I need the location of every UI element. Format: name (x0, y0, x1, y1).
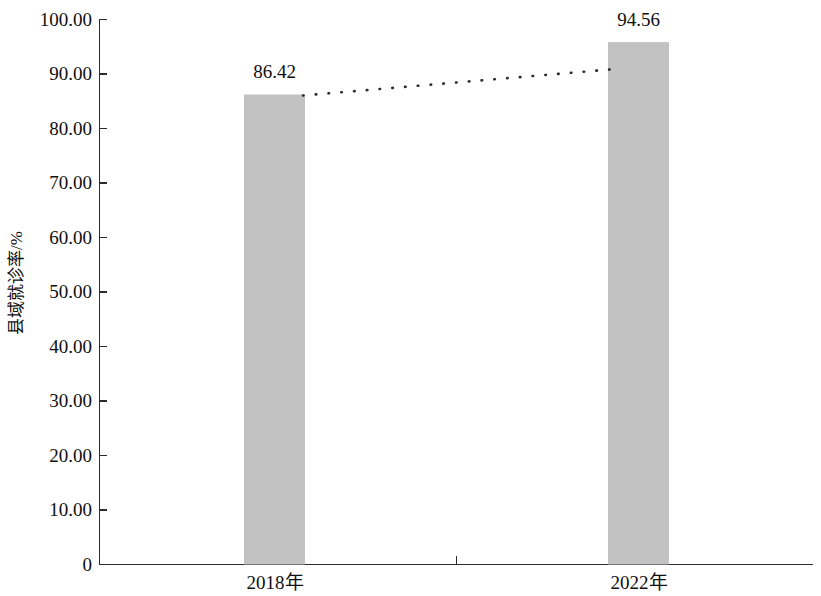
y-tick-label: 100.00 (40, 9, 92, 30)
y-tick-label: 30.00 (49, 390, 92, 411)
value-label-2018: 86.42 (253, 61, 296, 82)
y-tick-label: 90.00 (49, 63, 92, 84)
chart-canvas: 县域就诊率/% 100.00 90.00 80.00 70.00 60.00 5… (0, 0, 821, 596)
y-tick-label: 20.00 (49, 445, 92, 466)
y-tick-label: 0 (83, 554, 93, 575)
bar-2018 (244, 95, 305, 565)
x-axis-category-2022: 2022年 (611, 572, 668, 593)
y-tick-label: 40.00 (49, 336, 92, 357)
bar-2022 (608, 42, 669, 564)
y-tick-label: 60.00 (49, 227, 92, 248)
value-label-2022: 94.56 (617, 9, 660, 30)
y-tick-label: 70.00 (49, 172, 92, 193)
y-tick-label: 50.00 (49, 281, 92, 302)
bar-chart-figure: 县域就诊率/% 100.00 90.00 80.00 70.00 60.00 5… (0, 0, 821, 596)
chart-background (0, 0, 821, 596)
y-tick-label: 80.00 (49, 118, 92, 139)
x-axis-category-2018: 2018年 (247, 572, 304, 593)
y-tick-label: 10.00 (49, 499, 92, 520)
y-axis-title: 县域就诊率/% (7, 231, 26, 335)
